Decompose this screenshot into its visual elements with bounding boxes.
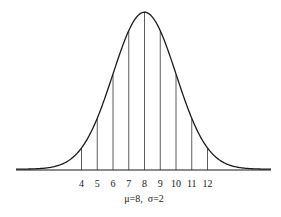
caption-mu: μ=8, <box>124 193 143 204</box>
x-tick-label: 12 <box>203 178 213 189</box>
x-tick-label: 6 <box>111 178 116 189</box>
bell-curve <box>16 12 271 169</box>
x-tick-label: 8 <box>142 178 147 189</box>
ordinate-lines <box>82 13 208 170</box>
x-tick-label: 10 <box>171 178 181 189</box>
x-tick-label: 7 <box>126 178 131 189</box>
x-tick-label: 11 <box>187 178 197 189</box>
normal-curve-chart <box>0 0 281 217</box>
parameter-caption: μ=8, σ=2 <box>124 193 164 204</box>
x-tick-label: 5 <box>95 178 100 189</box>
x-tick-label: 9 <box>158 178 163 189</box>
x-tick-label: 4 <box>79 178 84 189</box>
caption-sigma: σ=2 <box>148 193 164 204</box>
